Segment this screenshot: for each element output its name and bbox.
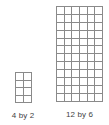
unit-square-cell [65,7,73,15]
unit-square-cell [72,7,80,15]
unit-square-cell [57,39,65,47]
unit-square-cell [65,54,73,62]
unit-square-cell [80,70,88,78]
unit-square-cell [88,70,96,78]
unit-square-cell [72,39,80,47]
unit-square-cell [80,46,88,54]
unit-square-cell [72,62,80,70]
unit-square-cell [72,31,80,39]
unit-square-cell [72,46,80,54]
unit-square-cell [95,70,103,78]
unit-square-cell [80,15,88,23]
unit-square-cell [88,86,96,94]
unit-square-cell [95,7,103,15]
unit-square-grid-4-by-2 [15,72,32,103]
unit-square-cell [72,54,80,62]
unit-square-cell [88,46,96,54]
unit-square-cell [65,39,73,47]
unit-square-cell [95,78,103,86]
unit-square-cell [16,73,24,81]
unit-square-cell [80,62,88,70]
unit-square-cell [72,23,80,31]
unit-square-cell [65,23,73,31]
unit-square-cell [72,78,80,86]
unit-square-cell [88,62,96,70]
unit-square-cell [57,31,65,39]
unit-square-cell [95,62,103,70]
unit-square-cell [88,15,96,23]
rectangle-array-figure: 4 by 2 12 by 6 [0,0,109,125]
unit-square-cell [57,7,65,15]
unit-square-cell [65,70,73,78]
unit-square-cell [24,73,32,81]
unit-square-cell [80,78,88,86]
rectangle-group-right: 12 by 6 [50,6,109,120]
unit-square-cell [57,78,65,86]
unit-square-cell [57,94,65,102]
unit-square-cell [57,15,65,23]
unit-square-cell [80,94,88,102]
rectangle-caption-left: 4 by 2 [12,111,34,121]
unit-square-cell [88,7,96,15]
unit-square-cell [80,31,88,39]
unit-square-grid-12-by-6 [56,6,103,102]
unit-square-cell [65,15,73,23]
unit-square-cell [72,15,80,23]
unit-square-cell [80,23,88,31]
unit-square-cell [95,15,103,23]
rectangle-caption-right: 12 by 6 [66,110,93,120]
unit-square-cell [72,70,80,78]
unit-square-cell [95,94,103,102]
unit-square-cell [88,23,96,31]
unit-square-cell [57,46,65,54]
unit-square-cell [65,46,73,54]
unit-square-cell [80,7,88,15]
unit-square-cell [80,54,88,62]
unit-square-cell [88,39,96,47]
unit-square-cell [57,23,65,31]
unit-square-cell [65,86,73,94]
unit-square-cell [24,88,32,96]
unit-square-cell [65,94,73,102]
unit-square-cell [80,39,88,47]
unit-square-cell [95,23,103,31]
unit-square-cell [57,70,65,78]
unit-square-cell [95,54,103,62]
unit-square-cell [57,54,65,62]
unit-square-cell [88,94,96,102]
unit-square-cell [57,86,65,94]
rectangle-group-left: 4 by 2 [0,72,46,121]
unit-square-cell [72,86,80,94]
unit-square-cell [95,39,103,47]
unit-square-cell [72,94,80,102]
unit-square-cell [16,96,24,104]
unit-square-cell [65,31,73,39]
unit-square-cell [95,86,103,94]
unit-square-cell [80,86,88,94]
unit-square-cell [95,46,103,54]
unit-square-cell [24,96,32,104]
unit-square-cell [16,88,24,96]
unit-square-cell [95,31,103,39]
unit-square-cell [65,78,73,86]
unit-square-cell [88,31,96,39]
unit-square-cell [16,81,24,89]
unit-square-cell [24,81,32,89]
unit-square-cell [88,78,96,86]
unit-square-cell [57,62,65,70]
unit-square-cell [65,62,73,70]
unit-square-cell [88,54,96,62]
